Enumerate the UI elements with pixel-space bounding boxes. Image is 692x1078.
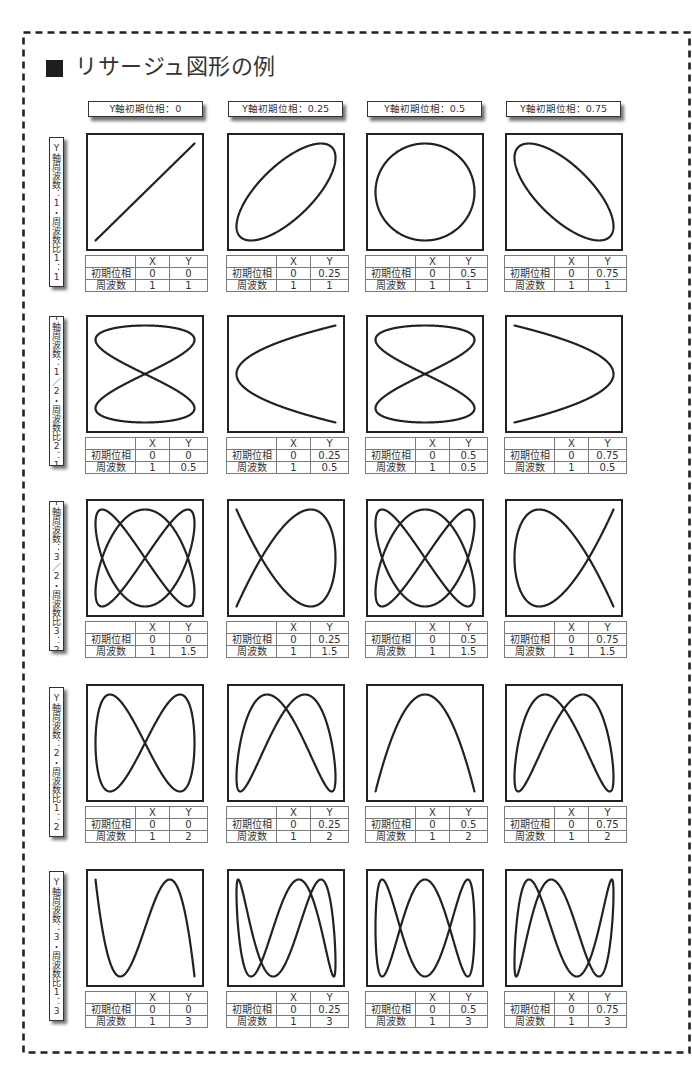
- lissajous-plot: [86, 869, 204, 987]
- parameter-table: XY 初期位相00.5 周波数13: [365, 991, 488, 1028]
- plot-frame: [228, 316, 344, 432]
- phase-label: 初期位相: [86, 819, 136, 831]
- y-frequency-value: 0.5: [311, 462, 349, 474]
- y-header: Y: [170, 256, 208, 268]
- table-corner: [505, 438, 555, 450]
- x-phase-value: 0: [555, 450, 589, 462]
- y-phase-value: 0.25: [311, 450, 349, 462]
- y-frequency-value: 3: [450, 1016, 488, 1028]
- page-title: リサージュ図形の例: [75, 54, 276, 80]
- table-corner: [86, 256, 136, 268]
- plot-frame: [367, 870, 483, 986]
- y-header: Y: [589, 622, 627, 634]
- table-corner: [366, 807, 416, 819]
- y-header: Y: [450, 992, 488, 1004]
- x-header: X: [555, 438, 589, 450]
- column-header-phase-0-25: Y軸初期位相：0.25: [228, 101, 343, 117]
- y-frequency-value: 3: [311, 1016, 349, 1028]
- x-phase-value: 0: [555, 268, 589, 280]
- y-header: Y: [170, 438, 208, 450]
- x-header: X: [555, 256, 589, 268]
- parameter-table: XY 初期位相00 周波数13: [85, 991, 208, 1028]
- plot-frame: [506, 685, 622, 801]
- lissajous-cell: XY 初期位相00.25 周波数13: [227, 869, 351, 1029]
- plot-frame: [367, 134, 483, 250]
- table-corner: [86, 992, 136, 1004]
- plot-frame: [228, 500, 344, 616]
- y-header: Y: [450, 622, 488, 634]
- y-header: Y: [589, 256, 627, 268]
- lissajous-cell: XY 初期位相00 周波数11.5: [86, 499, 210, 659]
- parameter-table: XY 初期位相00.25 周波数11.5: [226, 621, 349, 658]
- x-frequency-value: 1: [555, 831, 589, 843]
- table-corner: [505, 807, 555, 819]
- phase-label: 初期位相: [366, 450, 416, 462]
- y-phase-value: 0.5: [450, 819, 488, 831]
- parameter-table: XY 初期位相00.75 周波数13: [504, 991, 627, 1028]
- x-phase-value: 0: [416, 268, 450, 280]
- frequency-label: 周波数: [86, 280, 136, 292]
- x-frequency-value: 1: [136, 462, 170, 474]
- lissajous-cell: XY 初期位相00.25 周波数10.5: [227, 315, 351, 475]
- plot-frame: [228, 134, 344, 250]
- lissajous-cell: XY 初期位相00.5 周波数11.5: [366, 499, 490, 659]
- lissajous-plot: [366, 869, 484, 987]
- table-corner: [86, 807, 136, 819]
- frequency-label: 周波数: [366, 1016, 416, 1028]
- parameter-table: XY 初期位相00.5 周波数11.5: [365, 621, 488, 658]
- y-phase-value: 0.5: [450, 450, 488, 462]
- lissajous-plot: [227, 133, 345, 251]
- y-phase-value: 0: [170, 819, 208, 831]
- lissajous-plot: [366, 315, 484, 433]
- row-label-ratio-1-1: Y軸周波数：1・周波数比1：1: [49, 137, 64, 287]
- x-frequency-value: 1: [136, 831, 170, 843]
- frequency-label: 周波数: [505, 646, 555, 658]
- lissajous-plot: [86, 133, 204, 251]
- x-phase-value: 0: [416, 819, 450, 831]
- y-header: Y: [311, 992, 349, 1004]
- frequency-label: 周波数: [86, 646, 136, 658]
- y-phase-value: 0.75: [589, 634, 627, 646]
- x-phase-value: 0: [277, 634, 311, 646]
- x-frequency-value: 1: [416, 831, 450, 843]
- plot-frame: [506, 500, 622, 616]
- lissajous-cell: XY 初期位相00 周波数10.5: [86, 315, 210, 475]
- y-frequency-value: 2: [450, 831, 488, 843]
- y-header: Y: [589, 807, 627, 819]
- lissajous-plot: [505, 499, 623, 617]
- x-frequency-value: 1: [277, 462, 311, 474]
- table-corner: [366, 438, 416, 450]
- parameter-table: XY 初期位相00 周波数12: [85, 806, 208, 843]
- phase-label: 初期位相: [366, 268, 416, 280]
- x-frequency-value: 1: [136, 646, 170, 658]
- phase-label: 初期位相: [505, 634, 555, 646]
- y-phase-value: 0.75: [589, 819, 627, 831]
- frequency-label: 周波数: [227, 831, 277, 843]
- frequency-label: 周波数: [505, 462, 555, 474]
- x-header: X: [277, 256, 311, 268]
- y-header: Y: [450, 807, 488, 819]
- table-corner: [227, 438, 277, 450]
- frequency-label: 周波数: [227, 280, 277, 292]
- y-frequency-value: 1.5: [589, 646, 627, 658]
- y-header: Y: [450, 438, 488, 450]
- lissajous-plot: [366, 499, 484, 617]
- x-header: X: [136, 807, 170, 819]
- x-header: X: [136, 992, 170, 1004]
- frequency-label: 周波数: [86, 462, 136, 474]
- lissajous-plot: [505, 315, 623, 433]
- lissajous-plot: [505, 684, 623, 802]
- x-frequency-value: 1: [555, 462, 589, 474]
- x-header: X: [277, 438, 311, 450]
- x-phase-value: 0: [277, 1004, 311, 1016]
- phase-label: 初期位相: [366, 1004, 416, 1016]
- table-corner: [366, 992, 416, 1004]
- y-phase-value: 0.75: [589, 268, 627, 280]
- y-phase-value: 0.5: [450, 634, 488, 646]
- x-header: X: [555, 992, 589, 1004]
- phase-label: 初期位相: [227, 634, 277, 646]
- table-corner: [505, 992, 555, 1004]
- table-corner: [227, 807, 277, 819]
- lissajous-cell: XY 初期位相00.5 周波数10.5: [366, 315, 490, 475]
- y-header: Y: [589, 438, 627, 450]
